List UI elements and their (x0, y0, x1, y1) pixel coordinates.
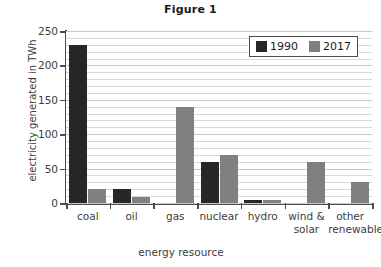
bar-oil-1990 (113, 189, 131, 203)
y-tick-label: 50 (22, 163, 58, 175)
x-tick-mark (285, 203, 287, 209)
bar-oil-2017 (132, 197, 150, 203)
y-tick-label: 100 (22, 128, 58, 140)
gridline-minor (66, 59, 372, 60)
bar-hydro-1990 (244, 200, 262, 203)
x-tick-mark (328, 203, 330, 209)
legend-label-2017: 2017 (323, 40, 351, 53)
x-tick-label-nuclear: nuclear (197, 210, 241, 223)
y-tick-mark (60, 169, 66, 171)
x-tick-label-line1: wind & (288, 210, 324, 222)
figure-container: Figure 1 electricity generated in TWh 05… (0, 0, 381, 267)
legend-entry-2017[interactable]: 2017 (309, 40, 351, 53)
gridline-major (66, 31, 372, 32)
gridline-major (66, 100, 372, 101)
bar-other-renewables-2017 (351, 182, 369, 203)
bar-gas-2017 (176, 107, 194, 203)
y-tick-label: 200 (22, 59, 58, 71)
x-tick-mark (241, 203, 243, 209)
bar-wind-solar-2017 (307, 162, 325, 203)
gridline-major (66, 134, 372, 135)
legend-label-1990: 1990 (270, 40, 298, 53)
x-tick-label-hydro: hydro (241, 210, 285, 223)
gridline-major (66, 65, 372, 66)
x-tick-mark (197, 203, 199, 209)
x-tick-label-line1: hydro (248, 210, 278, 222)
gridline-minor (66, 72, 372, 73)
x-tick-mark (110, 203, 112, 209)
x-axis-title: energy resource (66, 246, 296, 258)
y-tick-mark (60, 31, 66, 33)
bar-hydro-2017 (263, 200, 281, 203)
x-tick-mark (372, 203, 374, 209)
y-tick-mark (60, 65, 66, 67)
x-tick-label-line1: other (336, 210, 364, 222)
x-tick-label-oil: oil (110, 210, 154, 223)
x-tick-mark (153, 203, 155, 209)
bar-nuclear-1990 (201, 162, 219, 203)
y-tick-mark (60, 203, 66, 205)
legend-swatch-1990 (256, 41, 267, 52)
x-tick-label-coal: coal (66, 210, 110, 223)
y-tick-mark (60, 100, 66, 102)
gridline-minor (66, 148, 372, 149)
gridline-minor (66, 141, 372, 142)
x-tick-mark (66, 203, 68, 209)
legend-swatch-2017 (309, 41, 320, 52)
gridline-minor (66, 93, 372, 94)
bar-nuclear-2017 (220, 155, 238, 203)
gridline-major (66, 203, 372, 204)
x-tick-label-wind-solar: wind &solar (285, 210, 329, 235)
x-tick-label-line1: nuclear (199, 210, 238, 222)
x-tick-label-line2: solar (285, 223, 329, 236)
gridline-minor (66, 127, 372, 128)
gridline-minor (66, 79, 372, 80)
gridline-minor (66, 120, 372, 121)
x-tick-label-gas: gas (153, 210, 197, 223)
x-tick-label-line1: coal (77, 210, 99, 222)
y-tick-label: 0 (22, 197, 58, 209)
bar-coal-1990 (69, 45, 87, 203)
y-tick-label: 150 (22, 94, 58, 106)
x-tick-label-line1: oil (125, 210, 137, 222)
legend-entry-1990[interactable]: 1990 (256, 40, 298, 53)
y-tick-mark (60, 134, 66, 136)
gridline-minor (66, 114, 372, 115)
gridline-minor (66, 107, 372, 108)
x-tick-label-other-renewables: otherrenewables (328, 210, 372, 235)
y-tick-label: 250 (22, 25, 58, 37)
x-tick-label-line2: renewables (328, 223, 372, 236)
gridline-minor (66, 86, 372, 87)
bar-coal-2017 (88, 189, 106, 203)
x-tick-label-line1: gas (166, 210, 185, 222)
chart-legend[interactable]: 19902017 (249, 36, 358, 57)
y-axis-tick-labels: 050100150200250 (18, 0, 58, 267)
